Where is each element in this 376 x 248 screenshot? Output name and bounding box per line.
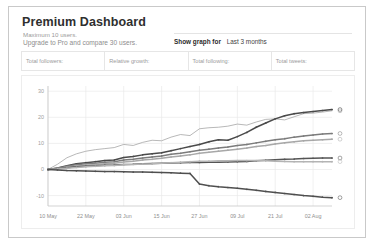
stat-label: Relative growth: — [109, 58, 149, 64]
x-tick-label: 09 Jul — [230, 213, 244, 219]
series-endpoint-marker[interactable] — [338, 196, 342, 200]
stat-total-followers: Total followers: — [21, 51, 104, 71]
x-tick-label: 15 Jun — [154, 213, 170, 219]
upgrade-note: Upgrade to Pro and compare 30 users. — [23, 39, 137, 46]
dashboard-page: Premium Dashboard Maximum 10 users. Upgr… — [8, 6, 366, 238]
x-tick-label: 27 Jun — [191, 213, 207, 219]
chart-series — [48, 109, 342, 170]
x-tick-label: 10 May — [39, 213, 57, 219]
stat-relative-growth: Relative growth: — [104, 51, 187, 71]
chart-card: 3020100-1010 May22 May03 Jun15 Jun27 Jun… — [21, 75, 355, 229]
show-graph-value[interactable]: Last 3 months — [227, 38, 267, 45]
stat-label: Total tweets: — [276, 58, 307, 64]
series-endpoint-marker[interactable] — [338, 137, 342, 141]
y-tick-label: -10 — [36, 193, 44, 199]
series-endpoint-marker[interactable] — [338, 132, 342, 136]
x-tick-label: 02 Aug — [305, 213, 322, 219]
stats-row: Total followers: Relative growth: Total … — [21, 51, 355, 71]
max-users-note: Maximum 10 users. — [23, 31, 77, 38]
stat-label: Total followers: — [26, 58, 63, 64]
y-tick-label: 20 — [38, 114, 44, 120]
y-tick-label: 30 — [38, 88, 44, 94]
chart-series — [47, 169, 342, 200]
series-endpoint-marker[interactable] — [338, 156, 342, 160]
page-title: Premium Dashboard — [22, 15, 146, 29]
x-tick-label: 21 Jul — [268, 213, 282, 219]
stat-label: Total following: — [193, 58, 230, 64]
show-graph-control[interactable]: Show graph for Last 3 months — [174, 38, 267, 45]
followers-line-chart[interactable]: 3020100-1010 May22 May03 Jun15 Jun27 Jun… — [22, 76, 354, 228]
y-tick-label: 10 — [38, 140, 44, 146]
x-tick-label: 22 May — [77, 213, 95, 219]
show-graph-label: Show graph for — [174, 38, 221, 45]
header-divider — [174, 33, 352, 34]
stat-total-tweets: Total tweets: — [271, 51, 355, 71]
stat-total-following: Total following: — [188, 51, 271, 71]
page-header: Premium Dashboard Maximum 10 users. Upgr… — [9, 7, 365, 49]
y-tick-label: 0 — [41, 166, 44, 172]
x-tick-label: 03 Jun — [116, 213, 132, 219]
series-endpoint-marker[interactable] — [338, 160, 342, 164]
